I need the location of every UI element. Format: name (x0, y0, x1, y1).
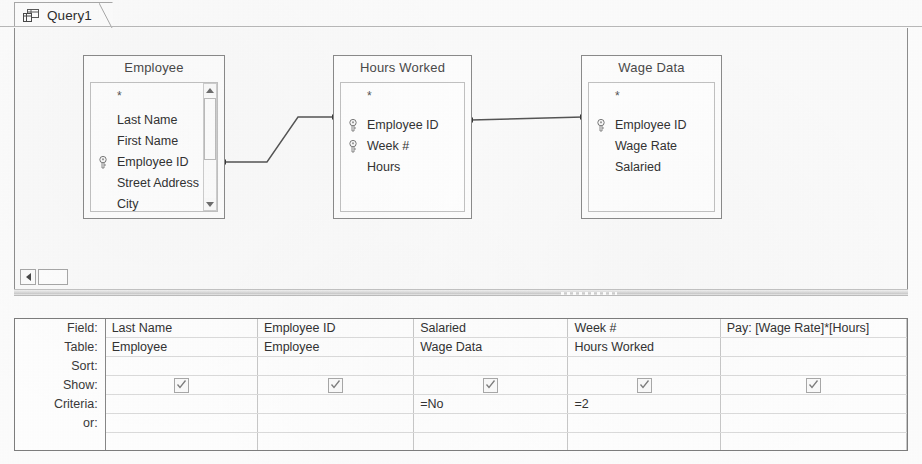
field-list-body[interactable]: * Employee ID Wage Rate Salaried (588, 82, 715, 212)
grid-row-show: Show: (15, 376, 907, 395)
design-grid-table: Field: Last Name Employee ID Salaried We… (15, 319, 907, 451)
grid-row-sort: Sort: (15, 357, 907, 376)
field-row-employee-id[interactable]: Employee ID (91, 152, 217, 173)
row-label-table: Table: (15, 338, 105, 357)
checkmark-icon (808, 379, 819, 390)
cell-table-2[interactable]: Employee (257, 338, 413, 357)
scroll-up-arrow[interactable] (204, 84, 216, 96)
document-tab-label: Query1 (47, 8, 92, 23)
cell-table-1[interactable]: Employee (105, 338, 257, 357)
field-list-hours-worked[interactable]: Hours Worked * Employee ID (333, 55, 472, 219)
cell-table-4[interactable]: Hours Worked (568, 338, 720, 357)
cell-show-3[interactable] (414, 376, 568, 395)
scroll-down-arrow[interactable] (204, 198, 216, 210)
field-row-week-number[interactable]: Week # (341, 136, 464, 157)
cell-criteria-2[interactable] (257, 395, 413, 414)
field-list-title: Hours Worked (334, 56, 471, 79)
cell-blank-1[interactable] (105, 433, 257, 451)
field-list-title: Employee (84, 56, 224, 79)
cell-table-3[interactable]: Wage Data (414, 338, 568, 357)
cell-field-3[interactable]: Salaried (414, 319, 568, 338)
cell-table-5[interactable] (720, 338, 906, 357)
show-checkbox[interactable] (483, 378, 498, 393)
row-label-show: Show: (15, 376, 105, 395)
splitter-grip[interactable] (561, 292, 617, 295)
cell-field-4[interactable]: Week # (568, 319, 720, 338)
grid-row-blank (15, 433, 907, 451)
query-diagram-pane[interactable]: Employee * Last Name First Name Employee… (14, 28, 908, 290)
cell-criteria-1[interactable] (105, 395, 257, 414)
field-row-employee-id[interactable]: Employee ID (341, 115, 464, 136)
field-list-body[interactable]: * Last Name First Name Employee ID Stree… (90, 82, 218, 212)
cell-show-1[interactable] (105, 376, 257, 395)
field-list-employee[interactable]: Employee * Last Name First Name Employee… (83, 55, 225, 219)
primary-key-icon (98, 156, 108, 169)
field-row-asterisk[interactable]: * (589, 87, 714, 105)
scroll-thumb[interactable] (204, 98, 216, 160)
access-query-design-view: Query1 Employee * Last Na (0, 0, 922, 464)
field-list-body[interactable]: * Employee ID (340, 82, 465, 212)
field-row-salaried[interactable]: Salaried (589, 157, 714, 178)
field-row-asterisk[interactable]: * (91, 87, 217, 105)
grid-row-criteria: Criteria: =No =2 (15, 395, 907, 414)
cell-sort-4[interactable] (568, 357, 720, 376)
cell-blank-3[interactable] (414, 433, 568, 451)
cell-sort-3[interactable] (414, 357, 568, 376)
cell-or-3[interactable] (414, 414, 568, 433)
cell-or-1[interactable] (105, 414, 257, 433)
row-label-field: Field: (15, 319, 105, 338)
checkmark-icon (639, 379, 650, 390)
checkmark-icon (330, 379, 341, 390)
show-checkbox[interactable] (328, 378, 343, 393)
cell-criteria-3[interactable]: =No (414, 395, 568, 414)
document-tab-query1[interactable]: Query1 (14, 2, 113, 27)
field-list-scrollbar[interactable] (203, 83, 217, 211)
cell-or-2[interactable] (257, 414, 413, 433)
row-label-criteria: Criteria: (15, 395, 105, 414)
field-row-employee-id[interactable]: Employee ID (589, 115, 714, 136)
cell-field-2[interactable]: Employee ID (257, 319, 413, 338)
checkmark-icon (485, 379, 496, 390)
query-design-grid[interactable]: Field: Last Name Employee ID Salaried We… (14, 318, 908, 451)
cell-show-5[interactable] (720, 376, 906, 395)
grid-row-or: or: (15, 414, 907, 433)
cell-show-4[interactable] (568, 376, 720, 395)
checkmark-icon (176, 379, 187, 390)
cell-sort-5[interactable] (720, 357, 906, 376)
cell-field-1[interactable]: Last Name (105, 319, 257, 338)
cell-or-5[interactable] (720, 414, 906, 433)
grid-row-field: Field: Last Name Employee ID Salaried We… (15, 319, 907, 338)
primary-key-icon (348, 119, 358, 132)
cell-show-2[interactable] (257, 376, 413, 395)
field-label: Week # (367, 139, 409, 153)
cell-blank-2[interactable] (257, 433, 413, 451)
field-row-asterisk[interactable]: * (341, 87, 464, 105)
cell-field-5[interactable]: Pay: [Wage Rate]*[Hours] (720, 319, 906, 338)
cell-sort-2[interactable] (257, 357, 413, 376)
tab-strip-underline (0, 26, 922, 27)
show-checkbox[interactable] (174, 378, 189, 393)
cell-criteria-5[interactable] (720, 395, 906, 414)
query-design-icon (23, 8, 40, 23)
cell-criteria-4[interactable]: =2 (568, 395, 720, 414)
cell-sort-1[interactable] (105, 357, 257, 376)
field-row-hours[interactable]: Hours (341, 157, 464, 178)
show-checkbox[interactable] (806, 378, 821, 393)
tab-slant-edge (99, 3, 113, 28)
primary-key-icon (348, 140, 358, 153)
field-row-street-address[interactable]: Street Address (91, 173, 217, 194)
row-label-sort: Sort: (15, 357, 105, 376)
field-row-first-name[interactable]: First Name (91, 131, 217, 152)
pane-splitter[interactable] (14, 289, 908, 296)
field-list-title: Wage Data (582, 56, 721, 79)
field-label: Employee ID (117, 155, 189, 169)
field-row-city[interactable]: City (91, 194, 217, 212)
cell-blank-4[interactable] (568, 433, 720, 451)
field-label: Employee ID (615, 118, 687, 132)
cell-or-4[interactable] (568, 414, 720, 433)
show-checkbox[interactable] (637, 378, 652, 393)
cell-blank-5[interactable] (720, 433, 906, 451)
field-row-last-name[interactable]: Last Name (91, 110, 217, 131)
field-row-wage-rate[interactable]: Wage Rate (589, 136, 714, 157)
field-list-wage-data[interactable]: Wage Data * Employee ID Wage Rate Salari… (581, 55, 722, 219)
